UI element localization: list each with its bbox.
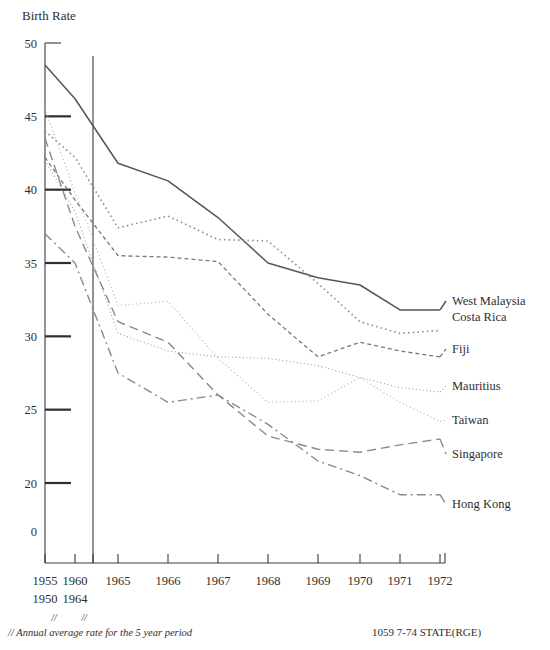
y-tick-label: 0 [31,525,37,539]
period-footnote: // Annual average rate for the 5 year pe… [7,627,193,638]
x-tick-label: 1967 [206,574,231,588]
birth-rate-chart-figure: Birth Rate 504540353025200 West Malaysia… [0,0,550,650]
x-tick-label: 1960 [63,574,88,588]
series-line [45,157,440,356]
y-axis-tick-labels: 504540353025200 [25,37,72,539]
period-marker: // [80,612,88,623]
series-label-fiji: Fiji [452,342,470,356]
chart-title: Birth Rate [22,8,76,23]
series-label-west-malaysia: West Malaysia [452,294,526,308]
x-tick-label: 1972 [428,574,453,588]
x-tick-label: 1968 [256,574,281,588]
series-label-layer: West MalaysiaCosta RicaFijiMauritiusTaiw… [452,294,526,511]
series-line [45,109,440,421]
series-label-hong-kong: Hong Kong [452,497,511,511]
series-line [45,234,440,495]
y-tick-label: 40 [25,183,38,197]
series-label-singapore: Singapore [452,447,503,461]
series-leader-line [440,301,446,310]
axis-layer [45,43,445,563]
x-tick-label: 1971 [388,574,413,588]
y-tick-label: 30 [25,330,38,344]
y-tick-label: 20 [25,477,38,491]
series-line [45,65,440,310]
x-tick-label: 1955 [33,574,58,588]
y-tick-label: 45 [25,110,38,124]
series-label-taiwan: Taiwan [452,413,489,427]
x-tick-sublabel: 1964 [63,592,89,606]
series-label-costa-rica: Costa Rica [452,310,507,324]
series-leader-line [440,349,446,357]
series-leader-line [440,420,446,421]
series-leader-line [440,386,446,392]
series-label-mauritius: Mauritius [452,379,501,393]
series-line [45,131,440,333]
x-tick-label: 1970 [348,574,373,588]
chart-svg: Birth Rate 504540353025200 West Malaysia… [0,0,550,650]
x-tick-label: 1966 [156,574,181,588]
x-tick-label: 1965 [106,574,131,588]
series-leader-line [440,439,446,454]
series-line [45,160,440,392]
y-tick-label: 35 [25,257,38,271]
x-tick-sublabel: 1950 [33,592,58,606]
period-marker: // [50,612,58,623]
y-tick-label: 25 [25,403,38,417]
credit-note: 1059 7-74 STATE(RGE) [372,626,481,639]
series-layer [45,65,446,504]
series-leader-line [440,495,446,504]
y-tick-label: 50 [25,37,38,51]
x-axis-tick-labels: 19551950//19601964//19651966196719681969… [33,554,453,623]
x-tick-label: 1969 [306,574,331,588]
